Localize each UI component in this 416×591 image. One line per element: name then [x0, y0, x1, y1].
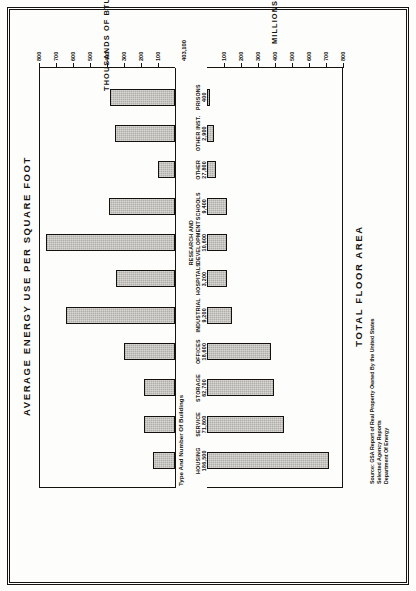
bottom-panel-title: TOTAL FLOOR AREA	[353, 66, 364, 506]
energy-bar	[66, 306, 175, 323]
floor-area-bar	[207, 270, 227, 287]
axis-tick-label: 700	[53, 51, 59, 60]
axis-tick-label: 500	[87, 51, 93, 60]
energy-bar	[153, 452, 175, 469]
total-buildings-value: 403,100	[181, 40, 187, 61]
axis-tick-label: 500	[289, 51, 295, 60]
energy-bar	[110, 88, 175, 105]
axis-tick-label: 400	[272, 51, 278, 60]
axis-tick-label: 100	[221, 51, 227, 60]
axis-tick-label: 800	[36, 51, 42, 60]
floor-area-bar	[207, 415, 284, 432]
axis-tick-label: 300	[255, 51, 261, 60]
floor-area-bar	[207, 306, 232, 323]
floor-area-bar	[207, 197, 227, 214]
axis-spine	[207, 67, 343, 68]
axis-tick-label: 600	[306, 51, 312, 60]
floor-area-bar	[207, 88, 210, 105]
source-line-1: GSA Report of Real Property Owned By the…	[369, 318, 375, 462]
energy-bar	[124, 343, 175, 360]
floor-area-bar	[207, 343, 271, 360]
energy-axis-caption: THOUSANDS OF BTU	[102, 0, 111, 90]
category-label: PRISONS400	[195, 67, 207, 127]
source-line-2: Selected Agency Reports	[376, 420, 382, 484]
source-note: Source: GSA Report of Real Property Owne…	[369, 318, 390, 484]
energy-bar	[144, 415, 175, 432]
energy-bar	[115, 124, 175, 141]
energy-bar	[109, 197, 175, 214]
axis-tick-label: 700	[323, 51, 329, 60]
axis-tick-label: 100	[155, 51, 161, 60]
floor-area-bar	[207, 234, 227, 251]
energy-bar	[144, 379, 175, 396]
category-baseline	[175, 68, 176, 488]
energy-use-plot	[39, 68, 175, 488]
floor-area-bar	[207, 452, 329, 469]
source-line-3: Department Of Energy	[383, 427, 389, 483]
category-label-band: HOUSING186,500SERVICE71,800STORAGE62,700…	[177, 68, 207, 488]
energy-bar	[116, 270, 175, 287]
axis-tick-label: 600	[70, 51, 76, 60]
axis-tick-label: 300	[121, 51, 127, 60]
floor-area-bar	[207, 379, 274, 396]
floor-area-axis-caption: MILLIONS OF SQUARE FEET	[270, 0, 279, 44]
energy-bar	[158, 161, 175, 178]
floor-area-plot	[207, 68, 343, 488]
chart: AVERAGE ENERGY USE PER SQUARE FOOT TOTAL…	[17, 16, 399, 576]
top-panel-title: AVERAGE ENERGY USE PER SQUARE FOOT	[21, 66, 32, 506]
chart-page: AVERAGE ENERGY USE PER SQUARE FOOT TOTAL…	[0, 0, 416, 591]
axis-tick-label: 200	[238, 51, 244, 60]
axis-tick-label: 200	[138, 51, 144, 60]
floor-area-bar	[207, 124, 214, 141]
axis-tick-label: 800	[340, 51, 346, 60]
energy-bar	[46, 234, 175, 251]
rotated-chart-stage: AVERAGE ENERGY USE PER SQUARE FOOT TOTAL…	[17, 16, 399, 576]
floor-area-bar	[207, 161, 216, 178]
source-label: Source:	[369, 464, 375, 484]
axis-tick	[343, 63, 344, 68]
